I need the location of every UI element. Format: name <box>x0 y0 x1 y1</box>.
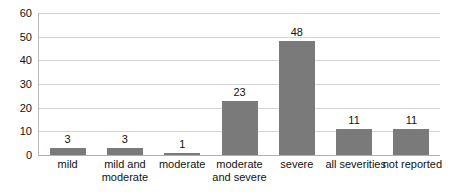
y-axis-tick-label: 10 <box>0 126 32 137</box>
x-axis-label-line: moderate <box>211 158 268 171</box>
bar <box>164 153 200 155</box>
y-axis-tick-label: 0 <box>0 150 32 161</box>
x-axis-label-line: severe <box>268 158 325 171</box>
x-axis-label-line: not reported <box>383 158 440 171</box>
bar <box>393 129 429 155</box>
bar-value-label: 3 <box>50 134 86 145</box>
x-axis-category-labels: mildmild andmoderatemoderatemoderateand … <box>39 158 440 196</box>
x-axis-category-label: mild <box>39 158 96 171</box>
bar-value-label: 11 <box>393 115 429 126</box>
x-axis-label-line: all severities <box>325 158 382 171</box>
bar-group: 48 <box>279 13 315 155</box>
bar-value-label: 11 <box>336 115 372 126</box>
x-axis-label-line: and severe <box>211 171 268 184</box>
y-axis-tick-label: 20 <box>0 102 32 113</box>
x-axis-category-label: all severities <box>325 158 382 171</box>
plot-area: 33123481111 <box>39 13 440 155</box>
bar-group: 3 <box>50 13 86 155</box>
y-axis-tick-labels: 0102030405060 <box>0 0 32 196</box>
x-axis-category-label: moderate <box>154 158 211 171</box>
x-axis-category-label: moderateand severe <box>211 158 268 184</box>
bar-group: 23 <box>222 13 258 155</box>
bar-value-label: 1 <box>164 139 200 150</box>
y-axis-tick-label: 40 <box>0 55 32 66</box>
bar-group: 11 <box>393 13 429 155</box>
y-axis-tick-label: 30 <box>0 79 32 90</box>
bar <box>336 129 372 155</box>
bar-group: 3 <box>107 13 143 155</box>
bar-group: 1 <box>164 13 200 155</box>
bars-layer: 33123481111 <box>39 13 440 155</box>
x-axis-category-label: mild andmoderate <box>96 158 153 184</box>
x-axis-category-label: not reported <box>383 158 440 171</box>
axis-baseline <box>39 155 440 156</box>
bar <box>222 101 258 155</box>
bar <box>50 148 86 155</box>
x-axis-category-label: severe <box>268 158 325 171</box>
bar <box>107 148 143 155</box>
y-axis-tick-label: 50 <box>0 31 32 42</box>
bar <box>279 41 315 155</box>
bar-value-label: 48 <box>279 27 315 38</box>
bar-chart: 0102030405060 33123481111 mildmild andmo… <box>0 0 453 196</box>
x-axis-label-line: mild and <box>96 158 153 171</box>
x-axis-label-line: mild <box>39 158 96 171</box>
bar-value-label: 23 <box>222 87 258 98</box>
x-axis-label-line: moderate <box>154 158 211 171</box>
bar-value-label: 3 <box>107 134 143 145</box>
bar-group: 11 <box>336 13 372 155</box>
x-axis-label-line: moderate <box>96 171 153 184</box>
y-axis-tick-label: 60 <box>0 8 32 19</box>
